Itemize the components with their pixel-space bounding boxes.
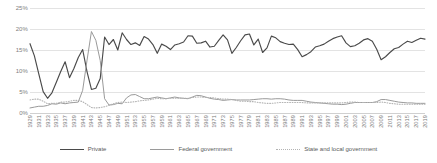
- x-tick-label: 1961: [167, 115, 173, 128]
- legend-swatch-icon: [150, 147, 174, 151]
- x-tick-label: 1991: [299, 115, 305, 128]
- x-tick-label: 1985: [273, 115, 279, 128]
- y-tick-label: 15%: [2, 47, 28, 53]
- legend-label: State and local government: [304, 146, 377, 153]
- x-tick-label: 1977: [238, 115, 244, 128]
- x-tick-label: 1975: [229, 115, 235, 128]
- x-tick-label: 1931: [36, 115, 42, 128]
- y-tick-label: 5%: [2, 89, 28, 95]
- x-tick-label: 1989: [290, 115, 296, 128]
- legend-item-private[interactable]: Private: [60, 146, 107, 153]
- x-tick-label: 1939: [71, 115, 77, 128]
- x-axis: 1929193119331935193719391941194319451947…: [30, 113, 425, 143]
- x-tick-label: 1963: [176, 115, 182, 128]
- legend-swatch-icon: [276, 147, 300, 151]
- x-tick-label: 2011: [387, 115, 393, 127]
- x-tick-label: 1959: [159, 115, 165, 128]
- x-tick-label: 1947: [106, 115, 112, 128]
- x-tick-label: 2005: [361, 115, 367, 128]
- x-tick-label: 2001: [343, 115, 349, 128]
- x-tick-label: 1933: [45, 115, 51, 128]
- chart-legend: PrivateFederal governmentState and local…: [0, 141, 437, 157]
- x-tick-label: 2003: [352, 115, 358, 128]
- y-tick-label: 0%: [2, 110, 28, 116]
- x-tick-label: 1979: [246, 115, 252, 128]
- legend-item-state-and-local-government[interactable]: State and local government: [276, 146, 377, 153]
- line-chart: 0%5%10%15%20%25% 19291931193319351937193…: [0, 0, 437, 163]
- x-tick-label: 1969: [203, 115, 209, 128]
- x-tick-label: 1955: [141, 115, 147, 128]
- y-tick-label: 25%: [2, 5, 28, 11]
- series-line-state-and-local-government: [30, 97, 425, 108]
- x-tick-label: 1949: [115, 115, 121, 128]
- x-tick-label: 1935: [53, 115, 59, 128]
- x-tick-label: 1965: [185, 115, 191, 128]
- x-tick-label: 1971: [211, 115, 217, 128]
- x-tick-label: 1943: [88, 115, 94, 128]
- x-tick-label: 1929: [27, 115, 33, 128]
- x-tick-label: 1953: [132, 115, 138, 128]
- x-tick-label: 2013: [396, 115, 402, 128]
- x-tick-label: 2009: [378, 115, 384, 128]
- y-axis: 0%5%10%15%20%25%: [0, 0, 28, 121]
- x-tick-label: 1999: [334, 115, 340, 128]
- series-canvas: [30, 8, 425, 113]
- x-tick-label: 2007: [369, 115, 375, 128]
- x-tick-label: 2017: [413, 115, 419, 128]
- x-tick-label: 1987: [282, 115, 288, 128]
- x-tick-label: 1993: [308, 115, 314, 128]
- legend-item-federal-government[interactable]: Federal government: [150, 146, 232, 153]
- x-tick-label: 1957: [150, 115, 156, 128]
- x-tick-label: 2019: [422, 115, 428, 128]
- x-tick-label: 1981: [255, 115, 261, 128]
- legend-label: Private: [88, 146, 107, 153]
- legend-swatch-icon: [60, 147, 84, 151]
- legend-label: Federal government: [178, 146, 232, 153]
- x-tick-label: 1973: [220, 115, 226, 128]
- x-tick-label: 1941: [80, 115, 86, 128]
- x-tick-label: 1997: [325, 115, 331, 128]
- plot-area: [30, 8, 425, 113]
- y-tick-label: 10%: [2, 68, 28, 74]
- y-tick-label: 20%: [2, 26, 28, 32]
- series-line-federal-government: [30, 32, 425, 108]
- x-tick-label: 1995: [317, 115, 323, 128]
- x-tick-label: 1951: [124, 115, 130, 128]
- x-tick-label: 1967: [194, 115, 200, 128]
- x-tick-label: 2015: [404, 115, 410, 128]
- x-tick-label: 1937: [62, 115, 68, 128]
- x-tick-label: 1983: [264, 115, 270, 128]
- x-tick-label: 1945: [97, 115, 103, 128]
